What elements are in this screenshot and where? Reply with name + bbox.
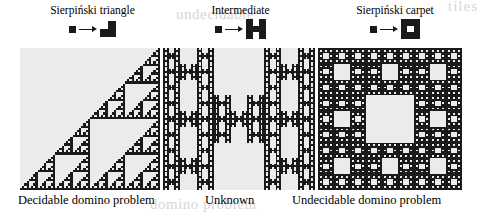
generator-cell-empty: [100, 21, 108, 29]
intermediate-h-svg: [163, 48, 315, 190]
sierpinski-triangle-svg: [20, 48, 160, 190]
filled-square-icon: [370, 26, 377, 33]
legend-sierpinski-carpet: Sierpiński carpet: [325, 4, 465, 38]
generator-cell-filled: [108, 21, 116, 29]
legend-intermediate: Intermediate: [178, 4, 303, 38]
right-arrow-icon: [79, 26, 97, 33]
legend-rule-sierpinski-carpet: [325, 20, 465, 38]
legend-title-sierpinski-triangle: Sierpiński triangle: [20, 4, 165, 17]
sierpinski-carpet-svg: [318, 48, 462, 190]
caption-undecidable: Undecidable domino problem: [292, 193, 441, 208]
caption-decidable: Decidable domino problem: [18, 193, 155, 208]
legend-sierpinski-triangle: Sierpiński triangle: [20, 4, 165, 38]
right-arrow-icon: [380, 26, 398, 33]
generator-cell-filled: [414, 32, 421, 39]
legend-rule-sierpinski-triangle: [20, 20, 165, 38]
generator-grid-sierpinski-carpet: [401, 19, 421, 39]
right-arrow-icon: [225, 26, 243, 33]
legend-title-intermediate: Intermediate: [178, 4, 303, 17]
intermediate-h-fractal: [163, 48, 315, 190]
generator-grid-sierpinski-triangle: [100, 21, 116, 37]
fractal-domino-figure: tiles undecidable domino problem Sierpiń…: [0, 0, 480, 218]
filled-square-icon: [69, 26, 76, 33]
sierpinski-triangle-fractal: [20, 48, 160, 190]
caption-unknown: Unknown: [205, 193, 254, 208]
sierpinski-carpet-fractal: [318, 48, 462, 190]
legend-rule-intermediate: [178, 20, 303, 38]
filled-square-icon: [215, 26, 222, 33]
generator-cell-filled: [100, 29, 108, 37]
generator-cell-filled: [108, 29, 116, 37]
generator-cell-filled: [259, 32, 266, 39]
generator-grid-intermediate: [246, 19, 266, 39]
legend-title-sierpinski-carpet: Sierpiński carpet: [325, 4, 465, 17]
